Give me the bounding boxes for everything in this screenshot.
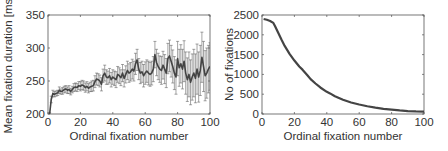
y-tick-label: 250	[26, 75, 45, 87]
chart-panel-2: 02040608010005001000150020002500Ordinal …	[223, 9, 434, 142]
x-tick-label: 40	[106, 116, 119, 128]
y-tick-label: 1500	[233, 49, 259, 61]
y-tick-label: 1000	[233, 68, 259, 80]
y-tick-label: 0	[253, 108, 259, 120]
y-tick-label: 2000	[233, 29, 259, 41]
x-tick-label: 20	[288, 116, 301, 128]
y-tick-label: 200	[26, 108, 45, 120]
y-tick-label: 350	[26, 9, 45, 21]
y-axis-label: No of fixations	[223, 28, 235, 101]
x-tick-label: 40	[320, 116, 333, 128]
x-tick-label: 60	[139, 116, 152, 128]
data-series	[48, 32, 211, 115]
x-tick-label: 60	[353, 116, 366, 128]
x-tick-label: 80	[171, 116, 184, 128]
x-tick-label: 100	[200, 116, 219, 128]
x-tick-label: 20	[74, 116, 87, 128]
data-series	[264, 19, 424, 112]
y-axis-label: Mean fixation duration [ms]	[2, 0, 14, 134]
chart-panel-1: 020406080100200250300350Ordinal fixation…	[2, 0, 220, 142]
data-line	[264, 19, 424, 112]
figure: 020406080100200250300350Ordinal fixation…	[0, 0, 448, 151]
x-axis-label: Ordinal fixation number	[284, 130, 403, 142]
x-tick-label: 0	[45, 116, 51, 128]
y-tick-label: 2500	[233, 9, 259, 21]
y-tick-label: 500	[240, 88, 259, 100]
y-tick-label: 300	[26, 42, 45, 54]
x-tick-label: 100	[414, 116, 433, 128]
x-axis-label: Ordinal fixation number	[70, 130, 189, 142]
x-tick-label: 0	[259, 116, 265, 128]
x-tick-label: 80	[385, 116, 398, 128]
